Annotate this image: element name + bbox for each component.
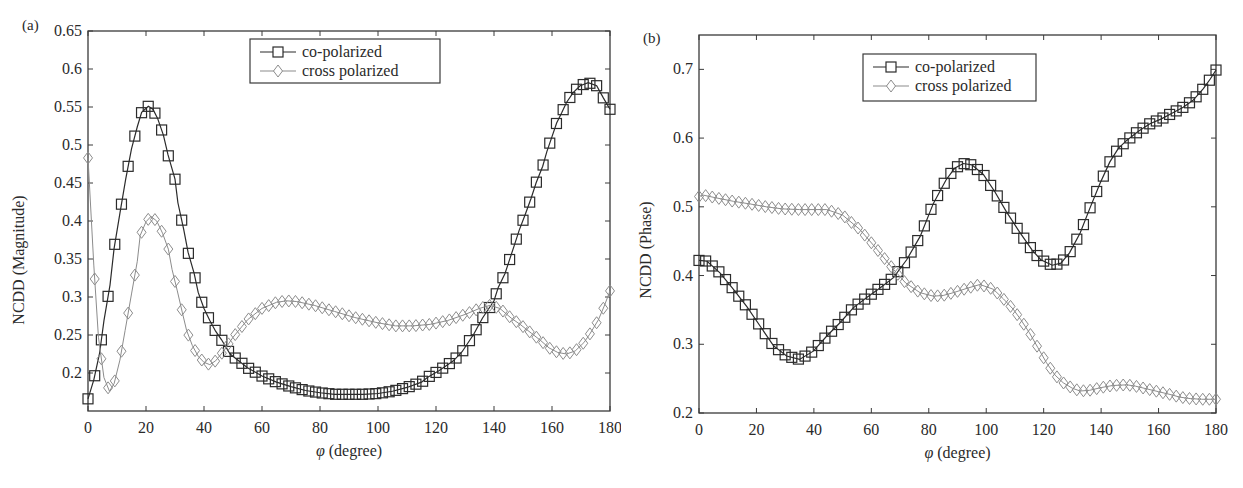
x-tick-label: 160 [540,419,564,436]
y-tick-label: 0.6 [62,60,82,77]
legend: co-polarizedcross polarized [250,39,440,83]
x-tick-label: 180 [598,419,621,436]
square-marker-icon [886,62,896,72]
x-tick-label: 140 [482,419,506,436]
x-tick-label: 40 [806,421,822,438]
co-polarized-series [83,78,615,404]
y-tick-label: 0.5 [62,136,82,153]
panel-label: (a) [22,17,39,34]
x-tick-label: 80 [312,419,328,436]
x-tick-label: 20 [138,419,154,436]
chart-panel-a: (a)0204060801001201401601800.20.250.30.3… [0,0,621,488]
panel-label: (b) [643,30,661,47]
x-tick-label: 180 [1204,421,1228,438]
cross-polarized-series [695,190,1221,406]
y-tick-label: 0.4 [62,212,82,229]
y-tick-label: 0.65 [54,22,82,39]
phase-chart: (b)0204060801001201401601800.20.30.40.50… [621,0,1243,488]
legend-label: cross polarized [915,77,1011,95]
y-tick-label: 0.6 [673,129,693,146]
y-tick-label: 0.7 [673,60,693,77]
x-tick-label: 20 [748,421,764,438]
x-tick-label: 60 [254,419,270,436]
x-tick-label: 100 [366,419,390,436]
y-tick-label: 0.25 [54,326,82,343]
legend: co-polarizedcross polarized [863,54,1036,101]
x-tick-label: 60 [863,421,879,438]
y-axis-label: NCDD (Magnitude) [10,195,28,324]
x-tick-label: 40 [196,419,212,436]
legend-label: co-polarized [915,58,995,76]
x-tick-label: 0 [84,419,92,436]
legend-label: co-polarized [302,43,382,61]
y-tick-label: 0.2 [673,404,693,421]
x-axis-label: φ (degree) [316,442,382,460]
y-tick-label: 0.2 [62,364,82,381]
x-axis-label: φ (degree) [924,444,990,462]
x-tick-label: 0 [695,421,703,438]
y-axis-ticks: 0.20.30.40.50.60.7 [673,60,1216,421]
x-tick-label: 160 [1147,421,1171,438]
y-axis-label: NCDD (Phase) [637,201,655,298]
y-tick-label: 0.3 [673,335,693,352]
magnitude-chart: (a)0204060801001201401601800.20.250.30.3… [0,0,621,488]
chart-panel-b: (b)0204060801001201401601800.20.30.40.50… [621,0,1243,488]
y-tick-label: 0.3 [62,288,82,305]
x-tick-label: 120 [1032,421,1056,438]
x-tick-label: 80 [921,421,937,438]
co-polarized-series [694,65,1221,364]
y-tick-label: 0.5 [673,198,693,215]
square-marker-icon [273,47,283,57]
y-tick-label: 0.35 [54,250,82,267]
x-tick-label: 140 [1089,421,1113,438]
plot-frame [88,31,610,411]
x-tick-label: 100 [974,421,998,438]
y-tick-label: 0.55 [54,98,82,115]
y-tick-label: 0.4 [673,267,693,284]
y-tick-label: 0.45 [54,174,82,191]
x-tick-label: 120 [424,419,448,436]
legend-label: cross polarized [302,62,398,80]
